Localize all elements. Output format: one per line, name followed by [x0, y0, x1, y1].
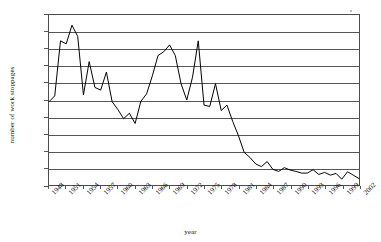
- x-tick-mark: [48, 186, 49, 189]
- line-chart: number of work stoppages 050100150200250…: [0, 0, 381, 242]
- x-tick-mark: [239, 186, 240, 189]
- x-tick-mark: [360, 186, 361, 189]
- x-tick-mark: [221, 186, 222, 189]
- x-tick-mark: [152, 186, 153, 189]
- page-speck: [350, 10, 352, 12]
- series-line-work-stoppages: [49, 25, 359, 179]
- x-tick-mark: [83, 186, 84, 189]
- x-tick-mark: [135, 186, 136, 189]
- x-tick-mark: [204, 186, 205, 189]
- x-tick-mark: [325, 186, 326, 189]
- x-tick-mark: [187, 186, 188, 189]
- x-tick-mark: [117, 186, 118, 189]
- series-svg: [49, 15, 359, 185]
- x-axis-title: year: [0, 228, 381, 236]
- x-tick-mark: [256, 186, 257, 189]
- x-tick-mark: [100, 186, 101, 189]
- x-tick-mark: [169, 186, 170, 189]
- x-tick-mark: [343, 186, 344, 189]
- x-tick-mark: [273, 186, 274, 189]
- x-tick-mark: [291, 186, 292, 189]
- x-tick-mark: [65, 186, 66, 189]
- plot-area: [48, 14, 360, 186]
- x-tick-mark: [308, 186, 309, 189]
